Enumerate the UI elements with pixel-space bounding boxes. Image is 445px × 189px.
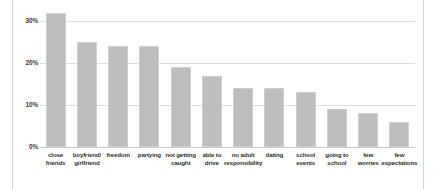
plot-area	[40, 6, 415, 147]
bar	[77, 42, 97, 147]
x-axis-label-line: expectations	[376, 159, 422, 167]
bar	[46, 13, 66, 147]
x-axis-category-labels: closefriendsboyfriend/girlfriendfreedomp…	[40, 151, 425, 187]
bar	[358, 113, 378, 147]
x-axis-category-label: fewexpectations	[376, 151, 422, 168]
bar	[327, 109, 347, 147]
x-axis-line	[40, 147, 415, 148]
bar	[139, 46, 159, 147]
x-axis-label-line: girlfriend	[64, 159, 110, 167]
x-axis-label-line: responsibility	[220, 159, 266, 167]
bar	[108, 46, 128, 147]
bar	[389, 122, 409, 147]
x-axis-label-line: few	[376, 151, 422, 159]
bar	[264, 88, 284, 147]
y-axis-tick-label-10pct: 10%	[12, 101, 38, 108]
y-axis-tick-label-0pct: 0%	[12, 143, 38, 150]
bar	[171, 67, 191, 147]
y-axis-tick-label-30pct: 30%	[12, 17, 38, 24]
bar	[202, 76, 222, 147]
bar-chart: 0%10%20%30% closefriendsboyfriend/girlfr…	[0, 0, 445, 189]
bar-series	[40, 6, 415, 147]
y-axis-tick-label-20pct: 20%	[12, 59, 38, 66]
bar	[296, 92, 316, 147]
bar	[233, 88, 253, 147]
